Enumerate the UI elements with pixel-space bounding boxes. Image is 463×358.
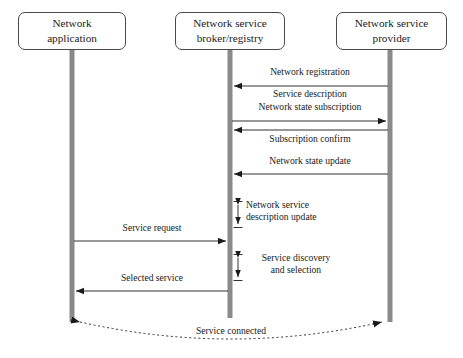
actor-label-network-application: Network application: [47, 16, 97, 46]
message-label-network-registration: Network registration: [236, 66, 384, 78]
sequence-diagram: Network application Network service brok…: [0, 0, 463, 358]
self-arrow-service-discovery-and-selection: [234, 255, 243, 281]
actor-box-network-service-provider[interactable]: Network service provider: [336, 12, 447, 50]
connection-label-service-connected: Service connected: [171, 325, 291, 337]
message-label-subscription-confirm: Subscription confirm: [236, 133, 384, 145]
message-label-network-state-subscription: Network state subscription: [231, 101, 389, 113]
actor-label-network-service-broker-registry: Network service broker/registry: [193, 16, 267, 46]
diagram-vector-layer: [0, 0, 463, 358]
lifeline-network-application: [70, 50, 75, 322]
self-arrow-network-service-description-update: [234, 202, 243, 228]
actor-label-network-service-provider: Network service provider: [355, 16, 429, 46]
lifeline-network-service-provider: [388, 50, 393, 322]
message-label-selected-service: Selected service: [78, 272, 226, 284]
message-label-service-description: Service description: [236, 88, 384, 100]
lifeline-network-service-broker-registry: [228, 50, 233, 318]
message-label-service-request: Service request: [78, 222, 226, 234]
self-activity-label-service-discovery-and-selection: Service discovery and selection: [246, 252, 346, 277]
self-activity-label-network-service-description-update: Network service description update: [246, 199, 356, 224]
message-label-network-state-update: Network state update: [236, 155, 384, 167]
actor-box-network-service-broker-registry[interactable]: Network service broker/registry: [175, 12, 285, 50]
self-activity-arrows: [234, 202, 243, 281]
actor-box-network-application[interactable]: Network application: [18, 12, 126, 50]
